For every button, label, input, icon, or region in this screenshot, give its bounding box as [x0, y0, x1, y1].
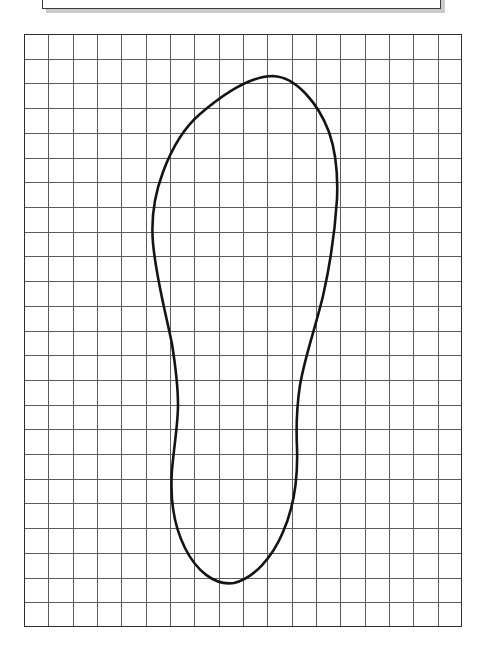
- graph-paper-container: [24, 34, 462, 627]
- graph-paper-grid: [24, 34, 462, 627]
- page-canvas: [0, 0, 485, 666]
- top-header-panel: [42, 0, 441, 9]
